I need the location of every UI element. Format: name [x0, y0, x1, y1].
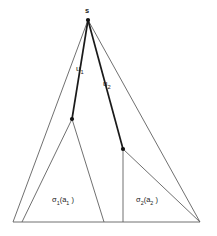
outer-triangle [13, 20, 200, 222]
node-u1 [70, 117, 74, 121]
apex-label-text: s [85, 6, 89, 15]
sigma1-edge-left [22, 119, 72, 222]
diagram-svg [0, 0, 217, 236]
region-label-sigma2-close: ) [153, 195, 158, 204]
edge-label-u1-subscript: 1 [80, 69, 83, 75]
edge-label-u2: u2 [103, 80, 111, 88]
outer-edge-right [88, 20, 200, 222]
region-label-sigma1: σ1(a1 ) [52, 196, 74, 204]
subtree-region-sigma2 [123, 149, 200, 222]
edge-label-u2-subscript: 2 [107, 84, 110, 90]
node-u2 [121, 147, 125, 151]
region-label-sigma2: σ2(a2 ) [136, 196, 158, 204]
figure-canvas: s u1 u2 σ1(a1 ) σ2(a2 ) [0, 0, 217, 236]
apex-label: s [85, 7, 89, 15]
edge-label-u1: u1 [76, 65, 84, 73]
region-label-sigma1-close: ) [69, 195, 74, 204]
outer-edge-left [13, 20, 88, 222]
sigma2-edge-right [123, 149, 200, 222]
apex-node [86, 18, 90, 22]
sigma1-edge-right [72, 119, 104, 222]
subtree-region-sigma1 [22, 119, 104, 222]
